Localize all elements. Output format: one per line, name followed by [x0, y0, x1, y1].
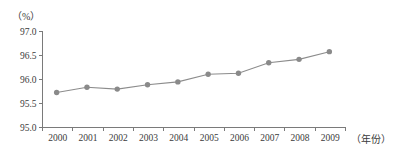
data-point-marker: [205, 72, 210, 77]
x-axis-tick-label: 2009: [321, 133, 340, 143]
data-point-marker: [84, 84, 89, 89]
y-axis-tick-label: 96.5: [20, 51, 37, 61]
x-axis-tick-label: 2008: [291, 133, 310, 143]
data-point-marker: [327, 49, 332, 54]
y-axis-tick-label: 95.0: [20, 123, 37, 133]
data-point-marker: [54, 90, 59, 95]
data-point-marker: [145, 82, 150, 87]
x-axis-tick-label: 2005: [200, 133, 219, 143]
chart-figure: （%） （年份） 95.095.596.096.597.0 2000200120…: [0, 0, 395, 155]
data-point-marker: [266, 60, 271, 65]
data-point-marker: [236, 71, 241, 76]
x-axis-tick-label: 2007: [260, 133, 279, 143]
x-axis-tick-label: 2004: [169, 133, 188, 143]
y-axis-tick-label: 97.0: [20, 27, 37, 37]
line-chart-plot: 95.095.596.096.597.0 2000200120022003200…: [0, 0, 395, 155]
y-axis-tick-label: 96.0: [20, 75, 37, 85]
y-axis-label-group: 95.095.596.096.597.0: [20, 27, 37, 133]
series-line-path: [57, 52, 330, 93]
data-point-marker: [296, 57, 301, 62]
x-axis-label-group: 2000200120022003200420052006200720082009: [48, 133, 340, 143]
x-axis-tick-label: 2001: [78, 133, 97, 143]
data-point-marker: [115, 86, 120, 91]
x-axis-tick-label: 2002: [109, 133, 128, 143]
y-axis-tick-label: 95.5: [20, 99, 37, 109]
x-axis-tick-group: [43, 128, 346, 132]
data-point-marker: [175, 79, 180, 84]
x-axis-tick-label: 2003: [139, 133, 158, 143]
y-axis-tick-group: [39, 32, 43, 128]
x-axis-tick-label: 2006: [230, 133, 249, 143]
x-axis-tick-label: 2000: [48, 133, 67, 143]
